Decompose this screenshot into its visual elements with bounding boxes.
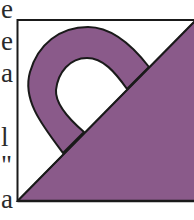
quilt-block-figure xyxy=(0,0,194,220)
